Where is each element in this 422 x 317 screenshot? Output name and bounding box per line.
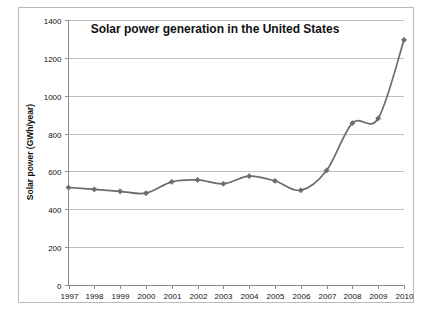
y-tick-label: 0 — [57, 282, 62, 291]
x-tick-label: 1999 — [112, 292, 130, 301]
x-axis-ticks-group: 1997199819992000200120022003200420052006… — [61, 285, 414, 301]
data-point-marker — [272, 178, 277, 183]
gridlines-group — [69, 21, 405, 248]
y-tick-label: 800 — [48, 131, 62, 140]
x-tick-label: 2000 — [138, 292, 156, 301]
data-point-marker — [143, 191, 148, 196]
x-tick-label: 2001 — [164, 292, 182, 301]
y-tick-label: 1400 — [44, 17, 62, 26]
x-tick-label: 2004 — [241, 292, 259, 301]
chart-figure: 0200400600800100012001400 19971998199920… — [0, 0, 422, 317]
y-tick-label: 400 — [48, 206, 62, 215]
data-point-marker — [401, 37, 406, 42]
x-tick-label: 2005 — [267, 292, 285, 301]
y-tick-label: 600 — [48, 168, 62, 177]
x-tick-label: 1997 — [61, 292, 79, 301]
data-point-markers-group — [66, 37, 407, 196]
y-axis-label: Solar power (GWh/year) — [25, 104, 35, 201]
y-tick-label: 200 — [48, 244, 62, 253]
data-point-marker — [195, 177, 200, 182]
data-point-marker — [66, 185, 71, 190]
data-point-marker — [298, 188, 303, 193]
y-axis-ticks-group: 0200400600800100012001400 — [44, 17, 69, 291]
data-point-marker — [169, 179, 174, 184]
data-point-marker — [221, 181, 226, 186]
chart-title: Solar power generation in the United Sta… — [91, 22, 340, 36]
y-tick-label: 1200 — [44, 55, 62, 64]
x-tick-label: 2007 — [319, 292, 337, 301]
x-tick-label: 1998 — [86, 292, 104, 301]
x-tick-label: 2009 — [370, 292, 388, 301]
solar-power-line-chart: 0200400600800100012001400 19971998199920… — [0, 0, 422, 317]
x-tick-label: 2002 — [190, 292, 208, 301]
x-tick-label: 2006 — [293, 292, 311, 301]
series-line-solar-power — [69, 40, 405, 194]
data-point-marker — [247, 174, 252, 179]
data-point-marker — [92, 187, 97, 192]
x-tick-label: 2003 — [215, 292, 233, 301]
x-tick-label: 2008 — [344, 292, 362, 301]
y-tick-label: 1000 — [44, 93, 62, 102]
x-tick-label: 2010 — [396, 292, 414, 301]
data-point-marker — [118, 189, 123, 194]
